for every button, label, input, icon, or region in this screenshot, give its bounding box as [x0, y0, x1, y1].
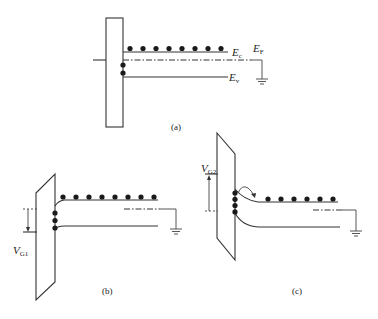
valence-band-line	[55, 226, 158, 229]
interface-charge-dot	[52, 225, 57, 230]
ground-wire	[160, 209, 176, 229]
interface-charge-dot	[232, 209, 237, 214]
electron-dot	[140, 46, 145, 51]
conduction-band-line	[55, 200, 158, 206]
interface-charge-dot	[52, 218, 57, 223]
electron-dot	[60, 194, 65, 199]
electron-dot	[127, 46, 132, 51]
electron-dot	[138, 194, 143, 199]
ground-icon	[256, 79, 268, 84]
electron-dot	[179, 46, 184, 51]
interface-charge-dot	[120, 62, 125, 67]
interface-charge-dot	[232, 190, 237, 195]
panel-b: VG1 (b)	[13, 174, 182, 300]
interface-charge-dot	[52, 210, 57, 215]
electron-dot	[99, 194, 104, 199]
electron-dot	[330, 196, 335, 201]
electron-dot	[86, 194, 91, 199]
electron-dot	[218, 46, 223, 51]
ec-label: Ec	[231, 46, 242, 60]
electron-dot	[112, 194, 117, 199]
oxide-layer	[217, 133, 235, 260]
panel-a: Ec EF Ev (a)	[93, 18, 268, 132]
electron-dot	[317, 196, 322, 201]
conduction-electrons	[127, 46, 223, 51]
ground-icon	[170, 229, 182, 234]
arrow-head-icon	[251, 193, 256, 198]
interface-charge-dot	[232, 197, 237, 202]
interface-charge-dot	[120, 70, 125, 75]
electron-dot	[151, 194, 156, 199]
electron-dot	[265, 196, 270, 201]
vg1-label: VG1	[13, 244, 29, 258]
electron-dot	[125, 194, 130, 199]
ef-label: EF	[252, 42, 264, 56]
valence-band-line	[235, 213, 340, 227]
electron-dot	[166, 46, 171, 51]
interface-charge-dot	[232, 203, 237, 208]
ev-label: Ev	[228, 71, 240, 85]
interface-charges	[52, 210, 57, 230]
electron-dot	[192, 46, 197, 51]
electron-dot	[291, 196, 296, 201]
conduction-electrons	[265, 196, 335, 201]
vg2-label: VG2	[201, 162, 217, 176]
arrow-head-icon	[26, 227, 30, 232]
ground-wire	[252, 60, 262, 79]
conduction-electrons	[60, 194, 156, 199]
electron-dot	[153, 46, 158, 51]
electron-dot	[278, 196, 283, 201]
electron-dot	[73, 194, 78, 199]
caption-b: (b)	[102, 286, 113, 296]
conduction-band-line	[235, 189, 338, 202]
caption-c: (c)	[292, 286, 302, 296]
electron-dot	[304, 196, 309, 201]
electron-dot	[205, 46, 210, 51]
oxide-layer	[36, 174, 55, 300]
panel-c: VG2 (c)	[201, 133, 362, 296]
ground-icon	[350, 231, 362, 236]
ground-wire	[342, 210, 356, 231]
band-diagram-figure: Ec EF Ev (a) VG1 (b) VG2	[0, 0, 378, 319]
caption-a: (a)	[171, 122, 181, 132]
